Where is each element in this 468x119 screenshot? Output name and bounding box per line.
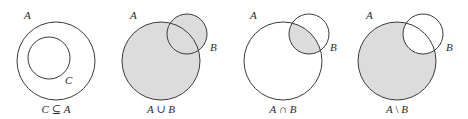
label-a: A: [249, 9, 257, 21]
set-a-circle: [244, 22, 322, 100]
label-c: C: [65, 74, 73, 86]
label-b: B: [330, 41, 337, 53]
panel-subset: A C C ⊆ A: [17, 9, 95, 115]
caption-union: A ∪ B: [146, 103, 175, 115]
caption-subset: C ⊆ A: [42, 103, 71, 115]
venn-diagrams-svg: A C C ⊆ A A B A ∪ B A B A ∩ B A B A \ B: [0, 0, 468, 119]
panel-difference: A B A \ B: [358, 9, 453, 115]
panel-union: A B A ∪ B: [122, 9, 217, 115]
label-b: B: [446, 41, 453, 53]
caption-intersection: A ∩ B: [269, 103, 297, 115]
label-b: B: [210, 41, 217, 53]
label-a: A: [129, 9, 137, 21]
venn-diagram-figure: A C C ⊆ A A B A ∪ B A B A ∩ B A B A \ B: [0, 0, 468, 119]
panel-intersection: A B A ∩ B: [244, 9, 337, 115]
set-c-circle: [28, 37, 70, 79]
label-a: A: [23, 9, 31, 21]
label-a: A: [365, 9, 373, 21]
caption-difference: A \ B: [385, 103, 408, 115]
